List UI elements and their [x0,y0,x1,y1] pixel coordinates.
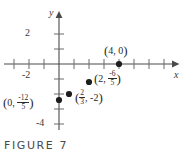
x-tick-label-neg2: -2 [22,70,30,80]
y-tick-label-neg4: -4 [36,118,44,128]
paren-close: ) [117,71,121,86]
y-axis-arrow [56,11,63,18]
fraction-denominator: 5 [17,102,29,111]
point-label-0-neg12-5: (0, -125) [3,94,34,111]
data-point-4-0[interactable] [116,61,122,67]
point-label-2-3-neg2: (23, -2) [75,89,103,106]
x-axis-label: x [174,70,178,80]
figure-caption: FIGURE 7 [4,139,68,152]
x-axis-arrow [172,61,180,68]
data-point-0-neg12-5[interactable] [56,97,62,103]
data-point-2-neg6-5[interactable] [86,79,92,85]
y-tick-label-2: 2 [25,28,30,38]
fraction-denominator: 5 [108,78,116,87]
paren-close: ) [29,95,33,110]
point-label-2-neg6-5: (2, -65) [94,70,121,87]
fraction-neg6-over-5: -65 [108,70,116,87]
figure-container: y x 2 -4 -2 (4, 0) (2, -65) (23, -2) (0,… [0,0,187,160]
fraction-neg12-over-5: -125 [17,94,29,111]
y-axis-label: y [49,8,53,18]
paren-close: ) [98,90,102,105]
data-point-2-3-neg2[interactable] [66,91,72,97]
paren-close: ) [123,43,127,58]
fraction-numerator: -12 [17,94,29,102]
point-label-4-0: (4, 0) [104,44,128,57]
fraction-numerator: -6 [108,70,116,78]
